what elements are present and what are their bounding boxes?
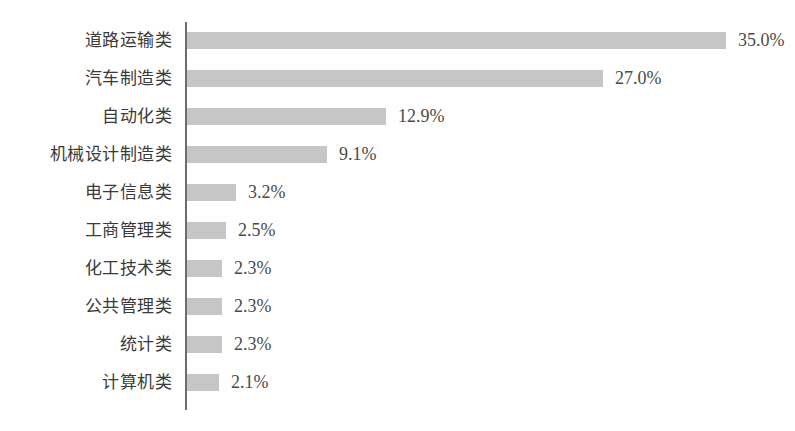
bar-row: 机械设计制造类9.1% xyxy=(0,136,795,174)
bar xyxy=(187,374,219,391)
bar-value-label: 2.1% xyxy=(231,374,269,391)
bar xyxy=(187,70,603,87)
category-label: 电子信息类 xyxy=(0,174,172,212)
category-label: 自动化类 xyxy=(0,98,172,136)
category-label: 计算机类 xyxy=(0,364,172,402)
bar-value-label: 3.2% xyxy=(248,184,286,201)
bar-value-label: 9.1% xyxy=(339,146,377,163)
bar-value-label: 2.3% xyxy=(234,260,272,277)
bar-track: 35.0% xyxy=(187,22,795,60)
bar-track: 2.3% xyxy=(187,326,795,364)
bar-rows: 道路运输类35.0%汽车制造类27.0%自动化类12.9%机械设计制造类9.1%… xyxy=(0,22,795,402)
bar-value-label: 2.5% xyxy=(238,222,276,239)
bar-value-label: 27.0% xyxy=(615,70,662,87)
bar xyxy=(187,184,236,201)
bar-track: 3.2% xyxy=(187,174,795,212)
category-label: 公共管理类 xyxy=(0,288,172,326)
bar-chart: 道路运输类35.0%汽车制造类27.0%自动化类12.9%机械设计制造类9.1%… xyxy=(0,0,795,431)
bar-value-label: 2.3% xyxy=(234,298,272,315)
bar-track: 2.3% xyxy=(187,250,795,288)
category-label: 工商管理类 xyxy=(0,212,172,250)
bar-track: 27.0% xyxy=(187,60,795,98)
bar-row: 道路运输类35.0% xyxy=(0,22,795,60)
bar xyxy=(187,146,327,163)
category-label: 道路运输类 xyxy=(0,22,172,60)
category-label: 汽车制造类 xyxy=(0,60,172,98)
bar xyxy=(187,108,386,125)
bar-row: 统计类2.3% xyxy=(0,326,795,364)
bar-value-label: 12.9% xyxy=(398,108,445,125)
bar xyxy=(187,298,222,315)
bar-track: 12.9% xyxy=(187,98,795,136)
bar-value-label: 2.3% xyxy=(234,336,272,353)
plot-area: 道路运输类35.0%汽车制造类27.0%自动化类12.9%机械设计制造类9.1%… xyxy=(0,0,795,431)
bar-row: 汽车制造类27.0% xyxy=(0,60,795,98)
bar-row: 化工技术类2.3% xyxy=(0,250,795,288)
bar xyxy=(187,336,222,353)
bar-value-label: 35.0% xyxy=(738,32,785,49)
bar-track: 2.3% xyxy=(187,288,795,326)
bar-row: 公共管理类2.3% xyxy=(0,288,795,326)
bar xyxy=(187,32,726,49)
bar-track: 2.5% xyxy=(187,212,795,250)
category-label: 化工技术类 xyxy=(0,250,172,288)
category-label: 机械设计制造类 xyxy=(0,136,172,174)
bar xyxy=(187,260,222,277)
bar-track: 9.1% xyxy=(187,136,795,174)
bar xyxy=(187,222,226,239)
bar-row: 计算机类2.1% xyxy=(0,364,795,402)
bar-row: 工商管理类2.5% xyxy=(0,212,795,250)
bar-row: 电子信息类3.2% xyxy=(0,174,795,212)
bar-track: 2.1% xyxy=(187,364,795,402)
category-label: 统计类 xyxy=(0,326,172,364)
bar-row: 自动化类12.9% xyxy=(0,98,795,136)
